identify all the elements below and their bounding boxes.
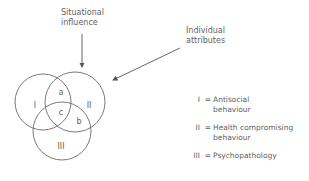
legend-line2: behaviour	[213, 105, 309, 115]
legend-numeral: I	[186, 95, 203, 115]
legend-equals: =	[203, 151, 213, 161]
label-c: c	[59, 108, 63, 117]
legend-item-i: I = Antisocial behaviour	[186, 95, 309, 115]
label-a: a	[59, 88, 64, 97]
legend-item-ii: II = Health compromising behaviour	[186, 123, 309, 143]
legend-desc: Antisocial behaviour	[213, 95, 309, 115]
legend-line2: behaviour	[213, 133, 309, 143]
legend-equals: =	[203, 123, 213, 143]
label-i: I	[34, 101, 36, 110]
legend-numeral: III	[186, 151, 203, 161]
label-iii: III	[57, 142, 64, 151]
legend-equals: =	[203, 95, 213, 115]
legend-desc: Health compromising behaviour	[213, 123, 309, 143]
legend-line1: Antisocial	[213, 95, 309, 105]
legend-line1: Health compromising	[213, 123, 309, 133]
label-ii: II	[87, 101, 92, 110]
legend-desc: Psychopathology	[213, 151, 309, 161]
label-b: b	[76, 117, 81, 126]
legend: I = Antisocial behaviour II = Health com…	[186, 95, 309, 169]
legend-item-iii: III = Psychopathology	[186, 151, 309, 161]
legend-line1: Psychopathology	[213, 151, 309, 161]
individual-arrow-icon	[113, 48, 180, 80]
legend-numeral: II	[186, 123, 203, 143]
circle-ii	[45, 72, 105, 132]
